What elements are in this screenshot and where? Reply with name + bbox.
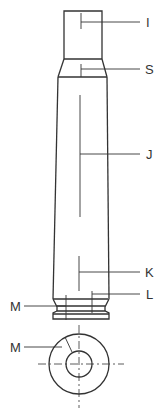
label-I: I [146,15,150,30]
body-left [53,77,58,299]
neck-outline [64,11,102,59]
label-M-head: M [10,340,21,355]
label-S: S [145,62,154,77]
body-right [107,77,109,299]
shoulder-left [58,59,64,77]
groove-right [105,299,109,311]
rim [53,311,109,319]
label-K: K [145,265,154,280]
groove-left [53,299,57,311]
head-view [38,325,124,408]
leader-lines [24,13,140,352]
case-outline [53,11,109,319]
shoulder-right [102,59,107,77]
label-L: L [146,287,153,302]
label-M-rim: M [10,299,21,314]
cartridge-diagram: I S J K L M M [0,0,165,413]
dim-M2-radial [65,337,72,352]
label-J: J [146,147,153,162]
